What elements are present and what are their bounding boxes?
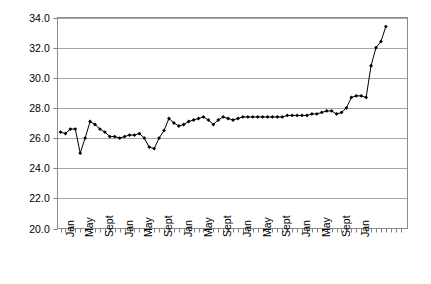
x-axis-tick-label: Sept (163, 215, 174, 237)
y-axis-tick-label: 28.0 (6, 103, 50, 114)
y-axis-tick-label: 26.0 (6, 133, 50, 144)
x-axis-tick-label: May (203, 217, 214, 237)
x-axis-tick-label: Jan (360, 220, 371, 237)
x-axis-tick-label: May (143, 217, 154, 237)
x-axis-tick-label: May (321, 217, 332, 237)
data-series-line (61, 27, 386, 154)
x-axis-tick-label: Sept (222, 215, 233, 237)
y-axis-tick-label: 22.0 (6, 193, 50, 204)
line-chart: 34.032.030.028.026.024.022.020.0 JanMayS… (0, 0, 431, 284)
x-axis-tick-label: Jan (65, 220, 76, 237)
x-axis-tick-label: Sept (104, 215, 115, 237)
y-axis-tick-label: 34.0 (6, 13, 50, 24)
x-axis-tick-label: Jan (301, 220, 312, 237)
y-axis-tick-label: 20.0 (6, 224, 50, 235)
x-axis-tick-label: May (262, 217, 273, 237)
plot-border (58, 18, 408, 229)
x-axis-tick-label: May (84, 217, 95, 237)
x-axis-tick-label: Sept (341, 215, 352, 237)
x-axis-tick-label: Jan (242, 220, 253, 237)
x-axis-tick-label: Jan (183, 220, 194, 237)
x-axis-tick-label: Sept (281, 215, 292, 237)
y-axis-tick-label: 30.0 (6, 73, 50, 84)
gridlines (58, 19, 408, 199)
chart-canvas (0, 0, 431, 284)
y-axis-tick-label: 32.0 (6, 43, 50, 54)
y-axis-tick-label: 24.0 (6, 163, 50, 174)
x-axis-tick-label: Jan (124, 220, 135, 237)
y-axis-ticks (54, 19, 58, 230)
